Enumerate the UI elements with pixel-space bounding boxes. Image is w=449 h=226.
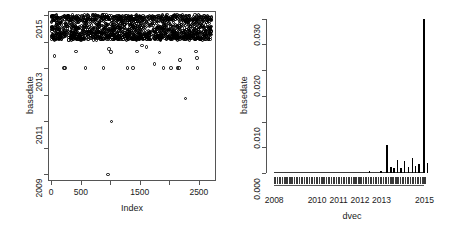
scatter-point: [63, 66, 66, 69]
rug-tick: [388, 177, 390, 184]
rug-tick: [291, 177, 293, 184]
right-x-axis-line: [274, 185, 424, 186]
rug-tick: [378, 177, 380, 184]
rug-tick: [299, 177, 301, 184]
left-y-tick: [44, 15, 48, 16]
scatter-point: [113, 27, 116, 30]
rug-tick: [314, 177, 316, 184]
left-y-tick: [44, 148, 48, 149]
density-spike: [380, 171, 381, 173]
rug-tick: [338, 177, 340, 184]
scatter-point: [54, 18, 57, 21]
left-y-tick: [44, 42, 48, 43]
scatter-point: [169, 66, 172, 69]
scatter-point: [50, 15, 53, 18]
scatter-point: [135, 50, 138, 53]
rug-tick: [301, 177, 303, 184]
right-plot-panel: basedate dvec 0.0000.0100.0200.030 20082…: [225, 0, 449, 226]
rug-tick: [328, 177, 330, 184]
left-x-axis-label: Index: [92, 203, 172, 213]
right-y-tick: [262, 19, 266, 20]
rug-tick: [380, 177, 382, 184]
right-y-tick: [262, 173, 266, 174]
scatter-point: [109, 50, 112, 53]
scatter-point: [198, 31, 201, 34]
left-y-tick: [44, 121, 48, 122]
rug-tick: [390, 177, 392, 184]
scatter-point: [96, 26, 99, 29]
scatter-point: [178, 58, 181, 61]
rug-tick: [343, 177, 345, 184]
scatter-point: [154, 33, 157, 36]
scatter-point: [75, 17, 78, 20]
density-spike: [427, 163, 428, 173]
rug-tick: [415, 177, 417, 184]
scatter-point: [74, 50, 77, 53]
right-x-tick-label: 2013: [362, 195, 402, 205]
scatter-point: [152, 28, 155, 31]
scatter-point: [200, 18, 203, 21]
rug-tick: [309, 177, 311, 184]
scatter-point: [106, 173, 109, 176]
density-spike: [369, 171, 370, 173]
rug-tick: [370, 177, 372, 184]
rug-tick: [277, 177, 279, 184]
right-y-tick: [262, 44, 266, 45]
scatter-point: [126, 66, 129, 69]
scatter-point: [207, 37, 210, 40]
left-y-tick: [44, 68, 48, 69]
rug-tick: [392, 177, 394, 184]
scatter-point: [110, 120, 113, 123]
right-y-tick-label: 0.030: [252, 18, 262, 52]
rug-tick: [375, 177, 377, 184]
scatter-point: [176, 25, 179, 28]
left-x-tick: [51, 181, 52, 185]
left-x-tick-label: 2500: [179, 187, 219, 197]
scatter-point: [62, 26, 65, 29]
scatter-point: [91, 36, 94, 39]
scatter-point: [152, 37, 155, 40]
right-y-tick: [262, 70, 266, 71]
left-x-tick: [81, 181, 82, 185]
density-spike: [393, 168, 394, 173]
scatter-point: [194, 50, 197, 53]
rug-tick: [284, 177, 286, 184]
scatter-point: [138, 24, 141, 27]
left-y-tick-label: 2013: [34, 67, 44, 97]
rug-tick: [296, 177, 298, 184]
left-y-tick-label: 2011: [34, 120, 44, 150]
right-y-tick: [262, 122, 266, 123]
left-x-tick-label: 1500: [120, 187, 160, 197]
scatter-point: [191, 30, 194, 33]
scatter-point: [94, 14, 97, 17]
rug-tick: [417, 177, 419, 184]
rug-tick: [365, 177, 367, 184]
rug-tick: [402, 177, 404, 184]
density-spike: [400, 168, 401, 173]
scatter-point: [149, 23, 152, 26]
rug-tick: [333, 177, 335, 184]
scatter-point: [75, 28, 78, 31]
scatter-point: [195, 36, 198, 39]
right-y-axis-label: basedate: [239, 65, 249, 125]
scatter-point: [165, 29, 168, 32]
scatter-point: [163, 37, 166, 40]
scatter-point: [63, 32, 66, 35]
density-spike: [404, 161, 405, 173]
right-x-axis-label: dvec: [312, 211, 392, 221]
rug-tick: [306, 177, 308, 184]
right-y-tick-label: 0.010: [252, 121, 262, 155]
scatter-point: [90, 32, 93, 35]
density-spike: [386, 145, 387, 173]
scatter-point: [140, 44, 143, 47]
scatter-point: [63, 18, 66, 21]
rug-tick: [321, 177, 323, 184]
scatter-point: [191, 18, 194, 21]
scatter-point: [137, 16, 140, 19]
rug-tick: [323, 177, 325, 184]
scatter-point: [176, 35, 179, 38]
scatter-point: [155, 15, 158, 18]
rug-tick: [346, 177, 348, 184]
scatter-point: [168, 23, 171, 26]
density-baseline: [274, 172, 424, 173]
